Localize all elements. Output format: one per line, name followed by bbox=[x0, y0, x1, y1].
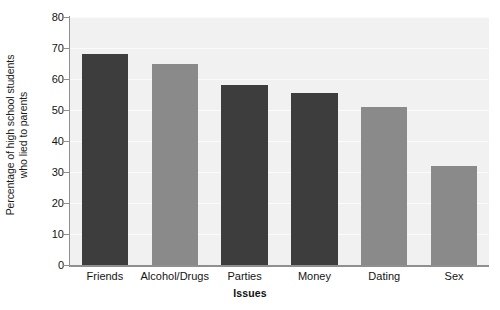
x-axis-line bbox=[69, 265, 489, 267]
bar bbox=[82, 54, 128, 265]
bar bbox=[152, 64, 198, 266]
x-tick-label: Sex bbox=[445, 270, 464, 282]
y-tick-label: 60 bbox=[38, 74, 64, 85]
bar-chart: Percentage of high school students who l… bbox=[0, 0, 500, 310]
bar bbox=[361, 107, 407, 265]
x-tick-label: Friends bbox=[87, 270, 124, 282]
y-tick-label: 10 bbox=[38, 229, 64, 240]
y-axis-tick-labels: 01020304050607080 bbox=[38, 0, 64, 310]
y-tick-label: 20 bbox=[38, 198, 64, 209]
x-tick-label: Parties bbox=[227, 270, 261, 282]
y-tick-label: 50 bbox=[38, 105, 64, 116]
y-axis-title-line1: Percentage of high school students bbox=[4, 55, 16, 216]
y-axis-title-line2: who lied to parents bbox=[17, 55, 30, 216]
y-tick-label: 70 bbox=[38, 43, 64, 54]
bars-group bbox=[70, 17, 489, 265]
y-tick-label: 80 bbox=[38, 12, 64, 23]
x-axis-title: Issues bbox=[0, 287, 500, 299]
x-tick-label: Dating bbox=[368, 270, 400, 282]
plot-area bbox=[70, 17, 489, 265]
bar bbox=[221, 85, 267, 265]
y-axis-line bbox=[69, 16, 70, 266]
y-axis-title: Percentage of high school students who l… bbox=[0, 0, 34, 270]
y-tick-label: 40 bbox=[38, 136, 64, 147]
y-tick-label: 0 bbox=[38, 260, 64, 271]
x-tick-label: Money bbox=[298, 270, 331, 282]
y-tick-label: 30 bbox=[38, 167, 64, 178]
bar bbox=[291, 93, 337, 265]
bar bbox=[431, 166, 477, 265]
x-tick-label: Alcohol/Drugs bbox=[141, 270, 209, 282]
